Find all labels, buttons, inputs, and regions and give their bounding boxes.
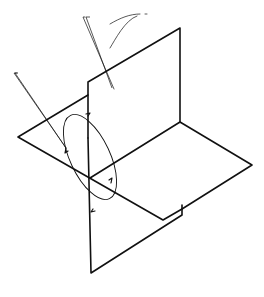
vertical-plane-leader [86,17,112,88]
second-angle-leader [14,73,66,148]
diagram-drawing [0,0,264,297]
leader-lines [15,14,147,148]
horizontal-plane [18,95,252,220]
projection-planes-diagram [0,0,264,297]
